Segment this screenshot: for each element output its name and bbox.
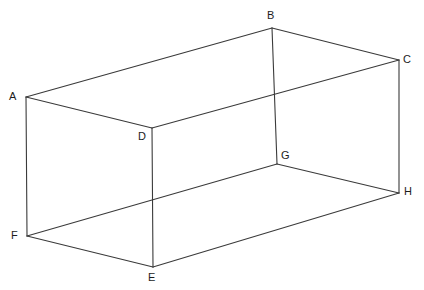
edge-a-f <box>26 97 27 236</box>
vertex-label-g: G <box>281 150 290 161</box>
prism-wireframe <box>0 0 424 290</box>
edge-d-e <box>152 128 153 267</box>
vertex-label-h: H <box>404 186 412 197</box>
vertex-label-b: B <box>267 10 274 21</box>
edge-b-g <box>272 28 277 164</box>
edge-e-h <box>153 193 399 267</box>
vertex-label-f: F <box>11 230 18 241</box>
vertex-label-a: A <box>9 91 16 102</box>
vertex-label-d: D <box>138 131 146 142</box>
vertex-label-c: C <box>403 54 411 65</box>
edge-a-b <box>26 28 272 97</box>
edge-g-h <box>277 164 399 193</box>
edge-a-d <box>26 97 152 128</box>
edge-f-e <box>27 236 153 267</box>
edge-b-c <box>272 28 399 60</box>
vertex-label-e: E <box>148 272 155 283</box>
cuboid-diagram: ABCDEFGH <box>0 0 424 290</box>
